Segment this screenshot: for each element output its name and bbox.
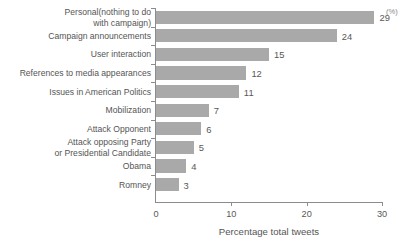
category-label: Personal(nothing to do with campaign)	[6, 7, 156, 27]
x-axis-tick-label: 0	[153, 209, 158, 219]
chart-row: Obama4	[0, 157, 407, 176]
category-label: Mobilization	[6, 105, 156, 115]
category-label: Issues in American Politics	[6, 87, 156, 97]
x-axis-tick-label: 10	[226, 209, 236, 219]
chart-row: Attack opposing Party or Presidential Ca…	[0, 138, 407, 157]
bar	[156, 159, 186, 172]
bar-value-label: 4	[186, 161, 196, 172]
bar	[156, 66, 246, 79]
bar	[156, 122, 201, 135]
y-axis-line	[155, 8, 156, 202]
x-axis-tick	[307, 202, 308, 206]
x-axis-tick	[382, 202, 383, 206]
x-axis-unit: (%)	[386, 7, 398, 16]
bar-value-label: 7	[209, 105, 219, 116]
category-label: User interaction	[6, 49, 156, 59]
chart-row: Romney3	[0, 175, 407, 194]
bar	[156, 141, 194, 154]
bar-value-label: 24	[337, 30, 352, 41]
bar-value-label: 15	[269, 49, 284, 60]
category-label: Attack Opponent	[6, 124, 156, 134]
x-axis-title: Percentage total tweets	[156, 226, 382, 237]
category-label: Obama	[6, 161, 156, 171]
chart-row: Attack Opponent6	[0, 120, 407, 139]
x-axis-ticks: 0102030	[0, 202, 407, 224]
bar	[156, 85, 239, 98]
category-label: Attack opposing Party or Presidential Ca…	[6, 137, 156, 157]
bar-value-label: 6	[201, 123, 211, 134]
chart-row: Mobilization7	[0, 101, 407, 120]
chart-rows: Personal(nothing to do with campaign)29C…	[0, 0, 407, 194]
chart-row: Campaign announcements24	[0, 27, 407, 46]
chart-row: References to media appearances12	[0, 64, 407, 83]
x-axis-tick-label: 20	[302, 209, 312, 219]
bar	[156, 29, 337, 42]
bar	[156, 11, 374, 24]
bar-value-label: 5	[194, 142, 204, 153]
bar	[156, 104, 209, 117]
bar-value-label: 3	[179, 179, 189, 190]
bar-chart: Personal(nothing to do with campaign)29C…	[0, 0, 407, 251]
x-axis-tick	[231, 202, 232, 206]
category-label: Campaign announcements	[6, 31, 156, 41]
bar	[156, 178, 179, 191]
chart-row: Issues in American Politics11	[0, 82, 407, 101]
chart-row: User interaction15	[0, 45, 407, 64]
chart-row: Personal(nothing to do with campaign)29	[0, 8, 407, 27]
bar	[156, 48, 269, 61]
category-label: Romney	[6, 180, 156, 190]
bar-value-label: 11	[239, 86, 254, 97]
x-axis-tick-label: 30	[377, 209, 387, 219]
bar-value-label: 12	[246, 68, 261, 79]
category-label: References to media appearances	[6, 68, 156, 78]
